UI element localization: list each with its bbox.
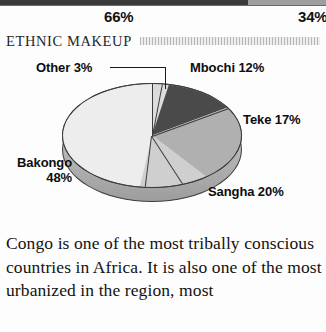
pie-label-bakongo-value: 48%: [46, 170, 72, 185]
ethnic-makeup-pie-chart: Other 3% Mbochi 12% Teke 17% Sangha 20% …: [0, 55, 326, 215]
body-paragraph-block: Congo is one of the most tribally consci…: [6, 232, 322, 303]
top-chart-right-percent: 34%: [298, 8, 326, 25]
almanac-page-fragment: 66% 34% ETHNIC MAKEUP: [0, 0, 326, 332]
section-title: ETHNIC MAKEUP: [6, 33, 132, 50]
leader-horizontal-segment: [110, 67, 166, 68]
pie-label-mbochi: Mbochi 12%: [190, 60, 264, 75]
leader-vertical-segment: [165, 67, 166, 89]
top-bar-light-segment: [248, 0, 326, 5]
pie-label-bakongo: Bakongo 48%: [4, 155, 72, 185]
pie-label-sangha: Sangha 20%: [208, 184, 284, 199]
other-leader-line: [110, 67, 166, 89]
top-bar-chart-strip: [0, 0, 326, 6]
top-chart-left-percent: 66%: [104, 8, 133, 25]
body-paragraph: Congo is one of the most tribally consci…: [6, 232, 322, 303]
pie-label-other: Other 3%: [36, 60, 92, 75]
section-rule-ornament: [140, 37, 320, 45]
pie-label-bakongo-name: Bakongo: [17, 155, 72, 170]
pie-top-face: [62, 83, 242, 188]
section-header: ETHNIC MAKEUP: [6, 33, 320, 52]
pie-label-teke: Teke 17%: [243, 112, 301, 127]
